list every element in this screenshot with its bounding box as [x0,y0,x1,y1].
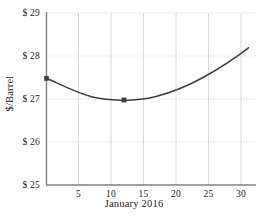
horizontal-gridlines [46,13,256,142]
x-axis-title: January 2016 [0,198,268,209]
y-axis-title: $/Barrel [4,59,15,129]
plot-canvas [0,0,268,217]
y-tick-label-25: $ 25 [4,180,40,190]
vertex-point-marker [122,98,126,102]
y-tick-label-29: $ 29 [4,8,40,18]
chart-figure: $ 29 $ 28 $ 27 $ 26 $ 25 5 10 15 20 25 3… [0,0,268,217]
start-point-marker [44,76,48,80]
y-tick-label-26: $ 26 [4,137,40,147]
